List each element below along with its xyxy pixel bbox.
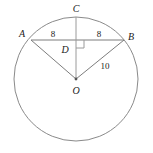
- label-point-b: B: [128, 31, 134, 42]
- label-length-ad: 8: [51, 29, 56, 39]
- label-point-d: D: [60, 44, 69, 55]
- right-angle-marker-icon: [76, 40, 84, 48]
- segment-ao-radius: [31, 40, 76, 79]
- segment-bo-radius: [76, 40, 124, 79]
- label-point-o: O: [72, 85, 79, 96]
- center-point-dot: [75, 78, 78, 81]
- geometry-canvas: A B C D O 8 8 10: [0, 0, 153, 153]
- geometry-figure: A B C D O 8 8 10: [0, 0, 153, 153]
- label-point-a: A: [18, 28, 26, 39]
- label-length-db: 8: [97, 29, 102, 39]
- label-length-ob: 10: [101, 61, 111, 71]
- label-point-c: C: [73, 3, 80, 14]
